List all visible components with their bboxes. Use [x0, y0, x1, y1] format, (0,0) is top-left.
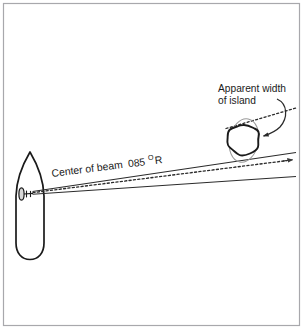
beam-label-bearing: 085 — [127, 156, 146, 169]
figure-frame: Apparent width of island Center of beam … — [0, 0, 303, 329]
radar-scanner-arm — [24, 193, 33, 194]
apparent-width-label-line2: of island — [218, 95, 256, 106]
apparent-width-label-line1: Apparent width — [218, 83, 286, 94]
radar-scanner-body — [19, 188, 24, 200]
radar-beam-diagram: Apparent width of island Center of beam … — [0, 0, 303, 329]
